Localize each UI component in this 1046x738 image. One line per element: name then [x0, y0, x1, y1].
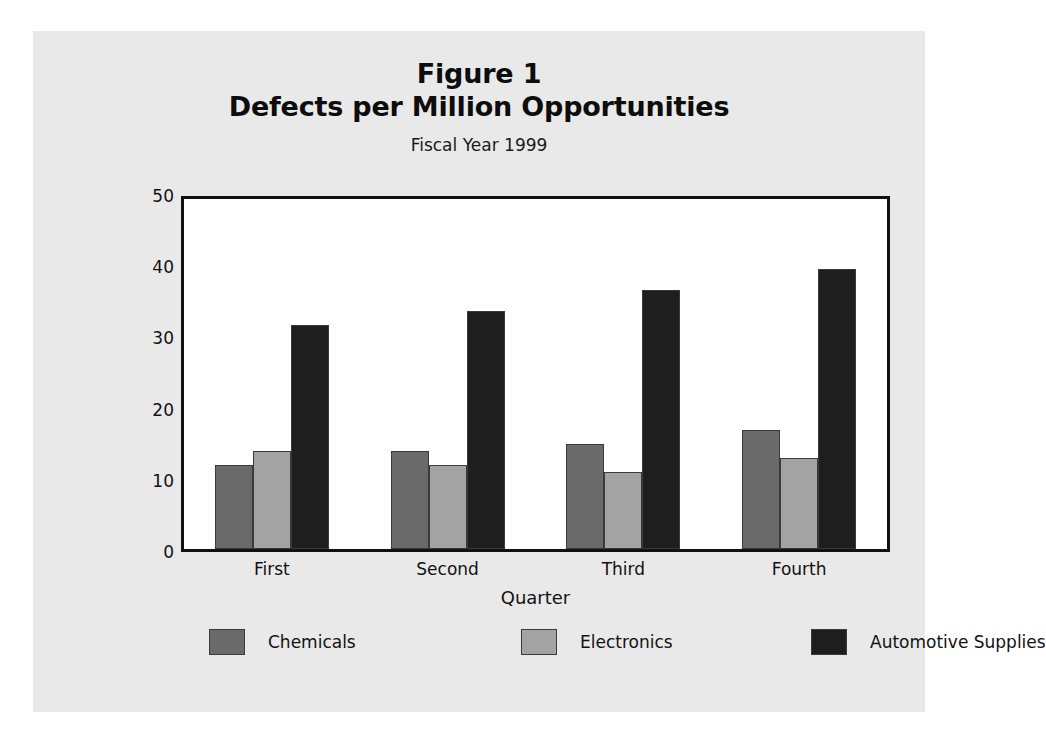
legend-swatch-icon: [521, 629, 557, 655]
bar-group-first: [215, 199, 329, 549]
bar-chemicals-second[interactable]: [391, 451, 429, 549]
chart-legend: ChemicalsElectronicsAutomotive Supplies: [181, 629, 901, 659]
bar-group-second: [391, 199, 505, 549]
x-axis-tick-label-second: Second: [378, 558, 518, 580]
legend-swatch-icon: [811, 629, 847, 655]
bar-chemicals-fourth[interactable]: [742, 430, 780, 549]
x-axis-tick-labels: FirstSecondThirdFourth: [181, 558, 890, 584]
x-axis-tick-label-fourth: Fourth: [729, 558, 869, 580]
bar-chemicals-third[interactable]: [566, 444, 604, 549]
legend-label: Chemicals: [268, 632, 356, 652]
y-axis-tick-label: 40: [134, 258, 174, 276]
legend-item-chemicals[interactable]: Chemicals: [209, 629, 356, 655]
legend-swatch-icon: [209, 629, 245, 655]
figure-subtitle: Fiscal Year 1999: [33, 135, 925, 155]
bar-electronics-third[interactable]: [604, 472, 642, 549]
x-axis-tick-label-first: First: [202, 558, 342, 580]
bar-automotive-supplies-third[interactable]: [642, 290, 680, 549]
plot-area: [184, 199, 887, 549]
legend-label: Automotive Supplies: [870, 632, 1046, 652]
y-axis-tick-label: 50: [134, 187, 174, 205]
y-axis-tick-label: 20: [134, 401, 174, 419]
bar-automotive-supplies-second[interactable]: [467, 311, 505, 549]
bar-group-third: [566, 199, 680, 549]
bar-automotive-supplies-first[interactable]: [291, 325, 329, 549]
figure-number: Figure 1: [33, 58, 925, 90]
bar-automotive-supplies-fourth[interactable]: [818, 269, 856, 549]
figure-title: Defects per Million Opportunities: [33, 90, 925, 124]
bar-group-fourth: [742, 199, 856, 549]
bar-electronics-fourth[interactable]: [780, 458, 818, 549]
x-axis-tick-label-third: Third: [553, 558, 693, 580]
x-axis-title: Quarter: [181, 587, 890, 608]
y-axis-tick-label: 0: [134, 543, 174, 561]
figure-panel: Figure 1 Defects per Million Opportuniti…: [33, 31, 925, 712]
legend-label: Electronics: [580, 632, 673, 652]
y-axis-tick-labels: 01020304050: [118, 196, 174, 552]
figure-title-block: Figure 1 Defects per Million Opportuniti…: [33, 58, 925, 155]
legend-item-automotive-supplies[interactable]: Automotive Supplies: [811, 629, 1046, 655]
bar-electronics-second[interactable]: [429, 465, 467, 549]
y-axis-tick-label: 10: [134, 472, 174, 490]
legend-item-electronics[interactable]: Electronics: [521, 629, 673, 655]
y-axis-tick-label: 30: [134, 329, 174, 347]
bar-electronics-first[interactable]: [253, 451, 291, 549]
bar-chemicals-first[interactable]: [215, 465, 253, 549]
plot-frame: [181, 196, 890, 552]
